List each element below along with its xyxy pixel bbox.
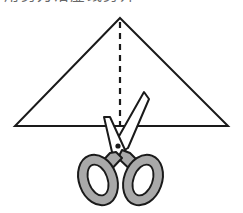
geometry-diagram [0,0,243,213]
scissors-pivot-rivet [115,143,120,148]
triangle-shape [15,18,228,126]
figure-root: 用剪刀沿虚线剪开 [0,0,243,213]
